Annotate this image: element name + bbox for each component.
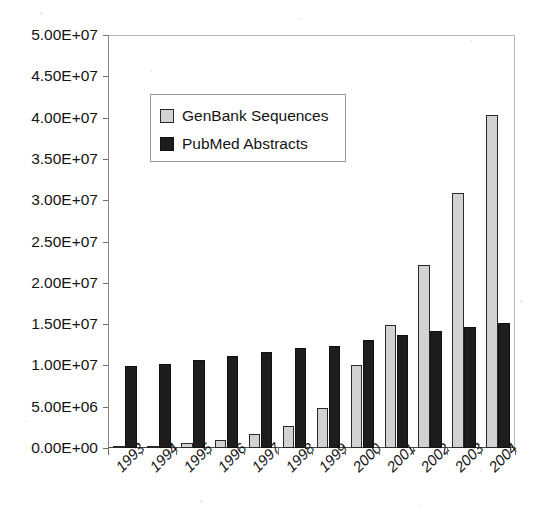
bar-genbank-1996 <box>215 440 227 448</box>
bar-genbank-1997 <box>249 434 261 448</box>
legend-item-pubmed: PubMed Abstracts <box>160 130 345 158</box>
bar-pubmed-2004 <box>498 323 510 448</box>
bar-genbank-1995 <box>181 443 193 448</box>
x-axis-tick-mark <box>176 448 177 455</box>
x-axis-tick-mark <box>142 448 143 455</box>
scan-speckle <box>520 300 523 303</box>
bar-pubmed-2000 <box>363 340 375 448</box>
bar-pubmed-1996 <box>227 356 239 448</box>
scan-speckle <box>90 240 92 242</box>
legend-label-pubmed: PubMed Abstracts <box>182 135 308 153</box>
bar-genbank-2001 <box>385 325 397 448</box>
y-axis-tick-label: 5.00E+06 <box>0 398 98 416</box>
bar-pubmed-1993 <box>125 366 137 448</box>
bar-pubmed-1998 <box>295 348 307 448</box>
x-axis-tick-mark <box>345 448 346 455</box>
x-axis-tick-mark <box>515 448 516 455</box>
legend-label-genbank: GenBank Sequences <box>182 107 329 125</box>
y-axis-tick-label: 1.50E+07 <box>0 315 98 333</box>
bar-pubmed-1999 <box>329 346 341 448</box>
legend-item-genbank: GenBank Sequences <box>160 102 345 130</box>
x-axis-tick-mark <box>244 448 245 455</box>
bar-genbank-2004 <box>486 115 498 448</box>
scan-speckle <box>150 70 152 72</box>
y-axis-tick-label: 5.00E+07 <box>0 26 98 44</box>
y-axis-tick-label: 3.00E+07 <box>0 191 98 209</box>
y-axis-tick-label: 0.00E+00 <box>0 439 98 457</box>
x-axis-tick-mark <box>379 448 380 455</box>
x-axis-tick-mark <box>278 448 279 455</box>
bar-genbank-2002 <box>418 265 430 448</box>
bar-genbank-2003 <box>452 193 464 448</box>
chart-legend: GenBank Sequences PubMed Abstracts <box>150 94 346 162</box>
y-axis-tick-label: 4.50E+07 <box>0 67 98 85</box>
scan-speckle <box>480 470 482 472</box>
bar-genbank-1999 <box>317 408 329 448</box>
bar-group <box>413 35 447 448</box>
scan-speckle <box>420 505 422 507</box>
y-axis-tick-label: 2.50E+07 <box>0 233 98 251</box>
x-axis-tick-mark <box>108 448 109 455</box>
y-axis-tick-label: 4.00E+07 <box>0 109 98 127</box>
bar-group <box>108 35 142 448</box>
x-axis-tick-mark <box>413 448 414 455</box>
bar-group <box>447 35 481 448</box>
y-axis-tick-label: 3.50E+07 <box>0 150 98 168</box>
y-axis-tick-label: 2.00E+07 <box>0 274 98 292</box>
bar-pubmed-1994 <box>159 364 171 448</box>
bar-genbank-1998 <box>283 426 295 448</box>
bar-group <box>345 35 379 448</box>
pubmed-swatch-icon <box>160 137 174 151</box>
bar-pubmed-2003 <box>464 327 476 448</box>
bar-pubmed-2002 <box>430 331 442 448</box>
x-axis-tick-mark <box>481 448 482 455</box>
scan-speckle <box>25 420 27 422</box>
genbank-swatch-icon <box>160 109 174 123</box>
scan-speckle <box>300 18 302 20</box>
bar-pubmed-2001 <box>397 335 409 448</box>
y-axis-tick-label: 1.00E+07 <box>0 356 98 374</box>
bar-group <box>379 35 413 448</box>
scan-speckle <box>470 40 472 42</box>
bar-pubmed-1995 <box>193 360 205 448</box>
bar-chart: 0.00E+005.00E+061.00E+071.50E+072.00E+07… <box>0 0 535 532</box>
x-axis-tick-mark <box>210 448 211 455</box>
bar-group <box>481 35 515 448</box>
bar-pubmed-1997 <box>261 352 273 448</box>
scan-speckle <box>40 12 43 15</box>
bar-genbank-2000 <box>351 365 363 448</box>
bar-genbank-1993 <box>113 446 125 448</box>
scan-speckle <box>200 500 203 503</box>
bar-genbank-1994 <box>147 446 159 448</box>
x-axis-tick-mark <box>447 448 448 455</box>
x-axis-tick-mark <box>312 448 313 455</box>
